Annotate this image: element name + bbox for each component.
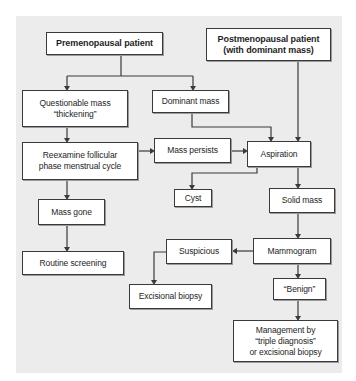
- node-premenopausal-patient: Premenopausal patient: [46, 32, 163, 55]
- edge-aspiration-cyst: [192, 167, 257, 186]
- node-reexamine-follicular-phase: Reexamine follicular phase menstrual cyc…: [22, 142, 138, 180]
- node-suspicious: Suspicious: [166, 239, 232, 264]
- edge-premenopausal-split: [67, 54, 193, 87]
- node-benign: “Benign”: [273, 278, 326, 300]
- node-mass-gone: Mass gone: [38, 199, 105, 225]
- node-management-triple-diagnosis: Management by “triple diagnosis” or exci…: [233, 320, 338, 362]
- node-aspiration: Aspiration: [247, 141, 311, 167]
- node-postmenopausal-patient: Postmenopausal patient (with dominant ma…: [206, 28, 331, 61]
- arrowhead-to-suspicious: [232, 248, 237, 254]
- edge-dominant-aspiration: [192, 113, 271, 138]
- edge-suspicious-excisional: [154, 252, 166, 281]
- node-mammogram: Mammogram: [253, 238, 331, 264]
- node-questionable-mass: Questionable mass “thickening”: [22, 90, 128, 127]
- node-cyst: Cyst: [174, 189, 212, 207]
- node-dominant-mass: Dominant mass: [152, 90, 229, 113]
- node-mass-persists: Mass persists: [154, 138, 231, 163]
- node-routine-screening: Routine screening: [22, 251, 124, 275]
- node-excisional-biopsy: Excisional biopsy: [129, 284, 212, 309]
- node-solid-mass: Solid mass: [269, 188, 335, 213]
